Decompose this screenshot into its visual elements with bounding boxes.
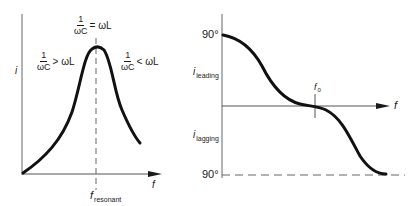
top-90-label: 90° — [202, 29, 219, 40]
annotation-top: 1ωC = ωL — [74, 15, 112, 36]
resonant-sub: resonant — [94, 196, 121, 203]
i-leading-sub: leading — [196, 72, 219, 79]
annotation-left-den: ωC — [37, 62, 51, 72]
left-x-arrow-icon — [148, 171, 162, 177]
f0-label: f0 — [314, 83, 321, 93]
i-leading-main: i — [193, 66, 195, 77]
annotation-right-rel: < ωL — [137, 57, 159, 67]
annotation-top-rel: = ωL — [90, 21, 112, 31]
annotation-top-den: ωC — [74, 26, 88, 36]
annotation-right-den: ωC — [121, 62, 135, 72]
annotation-top-num: 1 — [77, 15, 84, 26]
f0-sub: 0 — [318, 87, 321, 93]
annotation-right-num: 1 — [124, 51, 131, 62]
annotation-left: 1ωC > ωL — [37, 51, 75, 72]
i-leading-label: ileading — [193, 67, 219, 79]
annotation-left-rel: > ωL — [53, 57, 75, 67]
annotation-left-num: 1 — [40, 51, 47, 62]
resonant-f: f — [90, 189, 93, 201]
left-chart — [22, 14, 162, 190]
i-lagging-main: i — [193, 129, 195, 140]
f0-main: f — [314, 82, 317, 92]
bottom-90-label: 90° — [202, 169, 219, 180]
left-x-axis-label: f — [152, 180, 155, 190]
phase-curve — [223, 35, 386, 174]
left-y-axis-label: i — [15, 66, 17, 76]
annotation-right: 1ωC < ωL — [121, 51, 159, 72]
i-lagging-label: ilagging — [193, 130, 219, 142]
resonant-frequency-label: fresonant — [90, 190, 121, 203]
right-x-arrow-icon — [376, 103, 390, 109]
right-x-axis-label: f — [394, 100, 397, 111]
right-chart — [222, 14, 405, 178]
i-lagging-sub: lagging — [196, 135, 219, 142]
